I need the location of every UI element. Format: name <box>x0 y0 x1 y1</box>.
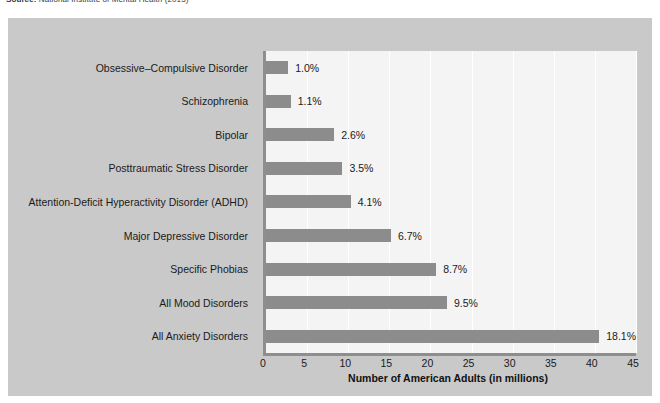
x-tick-label: 0 <box>260 357 266 369</box>
bar <box>266 296 447 309</box>
bar-row: 8.7% <box>266 252 636 286</box>
bar-value-label: 3.5% <box>349 162 373 174</box>
bar-value-label: 1.1% <box>298 95 322 107</box>
x-tick-label: 10 <box>339 357 351 369</box>
bar-row: 9.5% <box>266 286 636 320</box>
bar-value-label: 8.7% <box>443 263 467 275</box>
bar <box>266 162 342 175</box>
bar-value-label: 6.7% <box>398 230 422 242</box>
bar <box>266 195 351 208</box>
bar-row: 4.1% <box>266 185 636 219</box>
category-label: Specific Phobias <box>170 252 248 286</box>
bar-rows: 1.0%1.1%2.6%3.5%4.1%6.7%8.7%9.5%18.1% <box>266 51 636 353</box>
bar-value-label: 18.1% <box>606 330 636 342</box>
bar-row: 1.1% <box>266 85 636 119</box>
bar-value-label: 1.0% <box>295 62 319 74</box>
source-label: Source: <box>6 0 37 4</box>
figure-panel: Obsessive–Compulsive DisorderSchizophren… <box>8 18 652 396</box>
x-tick-label: 40 <box>586 357 598 369</box>
x-tick-label: 15 <box>380 357 392 369</box>
bar <box>266 128 334 141</box>
category-label: Schizophrenia <box>181 85 248 119</box>
bar <box>266 330 599 343</box>
category-label: All Anxiety Disorders <box>152 319 248 353</box>
category-label: Obsessive–Compulsive Disorder <box>96 51 248 85</box>
bar-value-label: 2.6% <box>341 129 365 141</box>
bar <box>266 61 288 74</box>
plot-area: 1.0%1.1%2.6%3.5%4.1%6.7%8.7%9.5%18.1% <box>263 51 636 356</box>
bar <box>266 95 291 108</box>
bar <box>266 263 436 276</box>
source-text: National Institute of Mental Health (201… <box>39 0 189 4</box>
category-label: Bipolar <box>215 118 248 152</box>
bar-row: 6.7% <box>266 219 636 253</box>
x-axis-ticks: 051015202530354045 <box>263 357 633 373</box>
bar-row: 1.0% <box>266 51 636 85</box>
gridline <box>636 51 637 353</box>
category-label: Major Depressive Disorder <box>124 219 248 253</box>
bar-row: 18.1% <box>266 319 636 353</box>
bar-value-label: 4.1% <box>358 196 382 208</box>
category-label: All Mood Disorders <box>159 286 248 320</box>
category-label: Posttraumatic Stress Disorder <box>109 152 248 186</box>
bar <box>266 229 391 242</box>
bar-row: 2.6% <box>266 118 636 152</box>
bar-row: 3.5% <box>266 152 636 186</box>
x-tick-label: 25 <box>463 357 475 369</box>
x-tick-label: 5 <box>301 357 307 369</box>
category-axis: Obsessive–Compulsive DisorderSchizophren… <box>8 51 256 353</box>
bar-value-label: 9.5% <box>454 297 478 309</box>
x-tick-label: 45 <box>627 357 639 369</box>
source-caption: Source: National Institute of Mental Hea… <box>6 0 188 4</box>
x-tick-label: 35 <box>545 357 557 369</box>
x-axis-title: Number of American Adults (in millions) <box>263 372 633 384</box>
x-tick-label: 30 <box>504 357 516 369</box>
x-tick-label: 20 <box>422 357 434 369</box>
category-label: Attention-Deficit Hyperactivity Disorder… <box>29 185 248 219</box>
